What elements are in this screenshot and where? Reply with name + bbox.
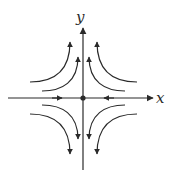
trajectory-lower-left-inner (42, 105, 78, 139)
trajectory-lower-right-inner (89, 105, 125, 139)
saddle-phase-portrait: x y (0, 0, 173, 182)
trajectory-upper-left-inner (42, 57, 78, 91)
trajectory-upper-right-inner (89, 57, 125, 91)
x-axis-label: x (156, 89, 165, 107)
trajectory-lower-right-outer (97, 114, 137, 154)
origin-point (80, 95, 85, 100)
trajectory-lower-left-outer (30, 114, 70, 154)
y-axis-label: y (75, 8, 85, 26)
trajectory-upper-right-outer (97, 42, 137, 82)
trajectory-upper-left-outer (30, 42, 70, 82)
